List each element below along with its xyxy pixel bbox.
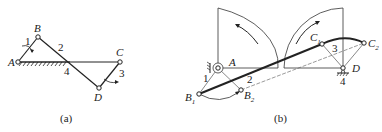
- joint-C2: [362, 41, 366, 45]
- caption-b: (b): [274, 112, 287, 125]
- label-B: B: [34, 22, 41, 34]
- label-link-2: 2: [58, 41, 64, 53]
- arrow-head-3: [115, 80, 119, 84]
- label-link-2: 2: [247, 73, 253, 85]
- link-3: [99, 62, 120, 88]
- figure-b: A B1 B2 C1 C2 D 1 2 3 4 (b): [185, 8, 379, 125]
- label-D: D: [93, 91, 102, 103]
- label-link-1: 1: [25, 35, 31, 47]
- label-C1: C1: [310, 31, 321, 46]
- label-link-4: 4: [64, 65, 70, 77]
- label-link-4: 4: [340, 75, 346, 87]
- label-A: A: [7, 56, 15, 68]
- joint-B2: [239, 88, 243, 92]
- joint-C: [118, 60, 122, 64]
- label-B1: B1: [185, 91, 195, 106]
- path-B1-B2: [199, 92, 239, 100]
- sector-arrow-left: [236, 25, 258, 44]
- joint-B: [36, 35, 40, 39]
- sector-left: [218, 8, 278, 68]
- label-link-1: 1: [203, 72, 209, 84]
- joint-A: [16, 60, 20, 64]
- joint-D: [97, 86, 101, 90]
- label-link-3: 3: [332, 42, 338, 54]
- joint-A: [216, 66, 220, 70]
- link-2-pos2: [241, 43, 364, 90]
- figure-a: A B C D 1 2 3 4 (a): [7, 22, 125, 125]
- joint-D: [341, 66, 345, 70]
- label-C2: C2: [368, 37, 379, 52]
- label-B2: B2: [244, 89, 255, 104]
- label-C: C: [116, 46, 124, 58]
- ground-hatch: [19, 62, 66, 66]
- label-D: D: [351, 62, 360, 74]
- arrow-head-1: [30, 49, 34, 53]
- label-link-3: 3: [119, 67, 125, 79]
- joint-B1: [197, 92, 201, 96]
- mechanism-diagram: A B C D 1 2 3 4 (a): [0, 0, 382, 132]
- caption-a: (a): [60, 112, 73, 125]
- label-A: A: [228, 56, 236, 68]
